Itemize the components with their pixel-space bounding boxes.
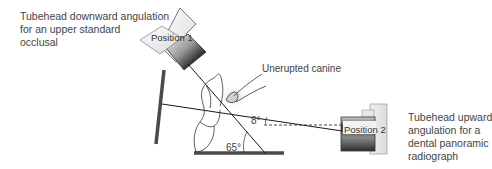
caption-line: for an upper standard	[20, 23, 169, 36]
angle-arc-8	[265, 117, 267, 125]
angle-label-8: 8°	[251, 115, 261, 126]
angle-label-65: 65°	[226, 142, 241, 153]
position-2-label: Position 2	[344, 124, 386, 135]
caption-line: Tubehead downward angulation	[20, 10, 169, 23]
caption-line: angulation for a	[408, 124, 492, 137]
caption-line: Tubehead upward	[408, 111, 492, 124]
beam-line-position-1	[188, 64, 266, 154]
angle-arc-65	[243, 131, 247, 153]
caption-line: occlusal	[20, 36, 169, 49]
film-vertical	[156, 70, 164, 144]
caption-position-2: Tubehead upward angulation for a dental …	[408, 111, 492, 163]
caption-line: dental panoramic	[408, 137, 492, 150]
caption-line: radiograph	[408, 150, 492, 163]
unerupted-canine-label: Unerupted canine	[262, 63, 341, 74]
position-1-label: Position 1	[151, 32, 193, 43]
caption-position-1: Tubehead downward angulation for an uppe…	[20, 10, 169, 49]
